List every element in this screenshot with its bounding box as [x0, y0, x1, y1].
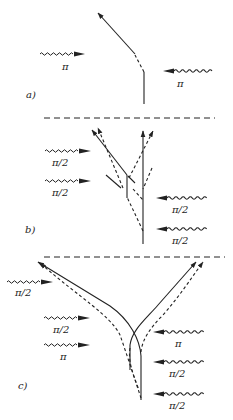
trajectory-dashed	[143, 168, 152, 189]
panel-c: π/2 π/2 π π π/2 π/2	[7, 262, 204, 411]
pulse-left-pi-half	[45, 149, 91, 154]
arrow-right-icon	[79, 179, 91, 184]
pulse-right-pi-half	[156, 196, 207, 201]
panel-label: b)	[25, 224, 35, 235]
trajectory-dashed	[141, 262, 203, 352]
pulse-label: π/2	[171, 235, 188, 246]
arrow-left-icon	[153, 392, 164, 397]
pulse-left-pi-half	[45, 179, 91, 184]
panel-label: a)	[26, 89, 36, 100]
pulse-label: π/2	[168, 400, 185, 411]
arrow-right-icon	[78, 343, 90, 348]
arrow-left-icon	[153, 360, 164, 365]
trajectory-dashed	[133, 189, 143, 200]
pulse-label: π	[61, 61, 69, 72]
trajectory-solid	[130, 262, 196, 370]
pulse-label: π/2	[171, 204, 188, 215]
arrow-left-icon	[153, 330, 164, 335]
pulse-right-pi-half	[153, 392, 204, 397]
trajectory-dashed	[135, 55, 144, 72]
pulse-label: π/2	[14, 287, 31, 298]
trajectory-solid	[92, 130, 127, 175]
panel-b: π/2 π/2 π/2 π/2	[25, 128, 207, 246]
pulse-label: π	[59, 351, 67, 362]
arrow-right-icon	[41, 280, 53, 285]
pulse-left-pi	[40, 52, 95, 57]
pulse-left-pi-half	[7, 280, 53, 285]
pulse-right-pi-half	[156, 227, 207, 232]
diagram-canvas: π π a) π/2 π/2 π/2	[0, 0, 233, 420]
pulse-right-pi-half	[153, 360, 204, 365]
pulse-label: π/2	[168, 368, 185, 379]
pulse-right-pi	[163, 69, 212, 74]
pulse-label: π/2	[52, 324, 69, 335]
arrow-right-icon	[74, 52, 85, 57]
pulse-left-pi	[44, 343, 90, 348]
pulse-left-pi-half	[44, 316, 90, 321]
panel-a: π π a)	[26, 13, 212, 104]
trajectory-dashed	[127, 197, 143, 231]
arrow-left-icon	[163, 69, 174, 74]
panel-label: c)	[18, 380, 28, 391]
arrow-right-icon	[79, 149, 91, 154]
pulse-label: π	[176, 78, 184, 89]
pulse-label: π/2	[51, 187, 68, 198]
trajectory-solid	[98, 13, 135, 54]
arrow-right-icon	[78, 316, 90, 321]
trajectory-dashed	[129, 348, 139, 390]
pulse-label: π/2	[51, 157, 68, 168]
arrow-left-icon	[156, 227, 167, 232]
trajectory-dashed	[129, 131, 153, 178]
pulse-label: π	[174, 338, 182, 349]
pulse-right-pi	[153, 330, 204, 335]
arrow-left-icon	[156, 196, 167, 201]
trajectory-solid	[128, 176, 135, 183]
